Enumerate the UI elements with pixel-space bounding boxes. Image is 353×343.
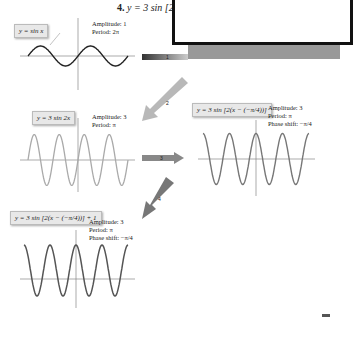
gray-band	[188, 45, 340, 59]
svg-text:1: 1	[166, 54, 169, 60]
sine-graph-g4	[0, 200, 170, 343]
overlay-panel	[172, 0, 353, 45]
arrow-1: 1	[142, 52, 202, 62]
dash-mark	[322, 314, 330, 317]
